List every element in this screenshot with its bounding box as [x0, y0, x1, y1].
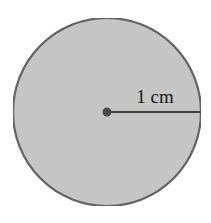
circle-diagram: 1 cm — [0, 0, 211, 223]
center-point — [103, 108, 112, 117]
radius-label: 1 cm — [136, 86, 174, 107]
